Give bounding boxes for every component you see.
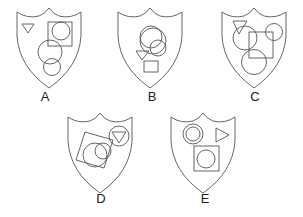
option-label: D	[96, 191, 105, 206]
square-shape	[249, 32, 273, 58]
option-a[interactable]: A	[17, 8, 81, 104]
shield-outline	[17, 8, 81, 88]
triangle-shape	[112, 132, 126, 143]
option-label: B	[148, 89, 157, 104]
circle-shape	[44, 59, 61, 76]
triangle-shape	[216, 128, 229, 142]
circle-shape	[38, 40, 62, 64]
shield-outline	[222, 8, 286, 88]
circle-shape	[83, 143, 107, 167]
triangle-shape	[22, 24, 34, 33]
circle-shape	[197, 150, 215, 168]
option-e[interactable]: E	[171, 113, 235, 206]
circle-shape	[95, 143, 111, 159]
shield-outline	[171, 113, 235, 193]
option-label: E	[201, 191, 210, 206]
option-c[interactable]: C	[222, 8, 286, 104]
shield-options-figure: A B C D E	[0, 0, 303, 217]
option-b[interactable]: B	[118, 8, 182, 104]
square-shape	[144, 61, 158, 72]
circle-shape	[52, 22, 70, 40]
option-label: C	[250, 89, 259, 104]
circle-shape	[186, 127, 200, 141]
option-d[interactable]: D	[68, 113, 132, 206]
shield-outline	[68, 113, 132, 193]
square-shape	[76, 132, 113, 168]
circle-shape	[242, 50, 267, 75]
option-label: A	[41, 89, 50, 104]
circle-shape	[233, 26, 257, 50]
